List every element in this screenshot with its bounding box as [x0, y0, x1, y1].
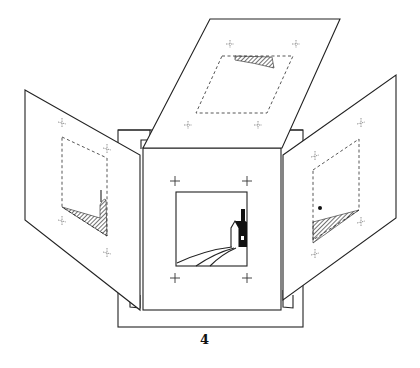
box-viewer-diagram [0, 0, 420, 368]
top-flap [143, 19, 340, 148]
figure-label: 4 [200, 332, 209, 347]
left-flap [25, 90, 140, 310]
center-panel [143, 148, 281, 310]
house-picture [176, 192, 247, 266]
